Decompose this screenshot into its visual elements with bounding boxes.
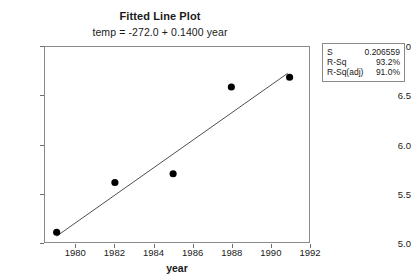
- plot-area: [44, 46, 310, 243]
- chart-title: Fitted Line Plot: [0, 10, 320, 22]
- stat-value: 91.0%: [376, 67, 400, 77]
- x-tick-label: 1988: [212, 248, 252, 258]
- stat-value: 93.2%: [376, 57, 400, 67]
- x-tick-mark: [271, 244, 272, 248]
- fitted-line-plot-figure: Fitted Line Plot temp = -272.0 + 0.1400 …: [0, 0, 411, 280]
- data-point: [228, 83, 235, 90]
- x-tick-mark: [154, 244, 155, 248]
- y-tick-label: 6.5: [377, 91, 411, 101]
- x-tick-mark: [310, 244, 311, 248]
- stat-row: R-Sq(adj)91.0%: [327, 67, 400, 77]
- x-tick-mark: [75, 244, 76, 248]
- chart-subtitle-equation: temp = -272.0 + 0.1400 year: [0, 26, 320, 38]
- data-point: [170, 170, 177, 177]
- stat-key: R-Sq(adj): [327, 67, 363, 77]
- x-tick-mark: [232, 244, 233, 248]
- y-tick-label: 5.5: [377, 190, 411, 200]
- x-tick-mark: [193, 244, 194, 248]
- x-axis-label: year: [44, 262, 310, 274]
- stat-key: R-Sq: [327, 57, 346, 67]
- regression-line: [57, 73, 288, 236]
- x-tick-label: 1986: [173, 248, 213, 258]
- x-tick-label: 1990: [251, 248, 291, 258]
- data-point: [53, 229, 60, 236]
- y-tick-label: 5.0: [377, 239, 411, 249]
- stat-row: R-Sq93.2%: [327, 57, 400, 67]
- x-tick-label: 1980: [55, 248, 95, 258]
- data-point: [286, 74, 293, 81]
- stat-key: S: [327, 47, 333, 57]
- stat-row: S0.206559: [327, 47, 400, 57]
- x-tick-label: 1984: [134, 248, 174, 258]
- data-point: [111, 179, 118, 186]
- y-tick-label: 6.0: [377, 141, 411, 151]
- x-tick-mark: [114, 244, 115, 248]
- plot-canvas: [45, 47, 309, 242]
- x-tick-label: 1992: [290, 248, 330, 258]
- x-tick-label: 1982: [94, 248, 134, 258]
- statistics-box: S0.206559R-Sq93.2%R-Sq(adj)91.0%: [322, 43, 405, 82]
- y-tick-mark: [40, 243, 44, 244]
- stat-value: 0.206559: [365, 47, 400, 57]
